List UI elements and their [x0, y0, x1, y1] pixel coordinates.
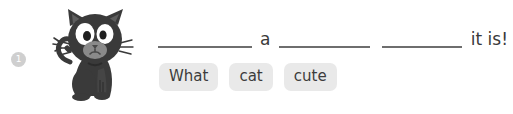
sentence-word-a: a — [260, 30, 270, 50]
word-chip-cute[interactable]: cute — [284, 63, 337, 91]
word-bank: What cat cute — [159, 63, 337, 91]
sentence-tail-text: it is! — [471, 30, 508, 50]
answer-blank-1[interactable] — [158, 29, 252, 48]
word-chip-what[interactable]: What — [159, 63, 218, 91]
cat-illustration — [48, 4, 144, 108]
answer-blank-3[interactable] — [382, 29, 462, 48]
word-chip-cat[interactable]: cat — [229, 63, 272, 91]
answer-blank-2[interactable] — [279, 29, 370, 48]
sentence-row: a it is! — [158, 26, 508, 50]
question-number-badge: 1 — [11, 52, 26, 67]
